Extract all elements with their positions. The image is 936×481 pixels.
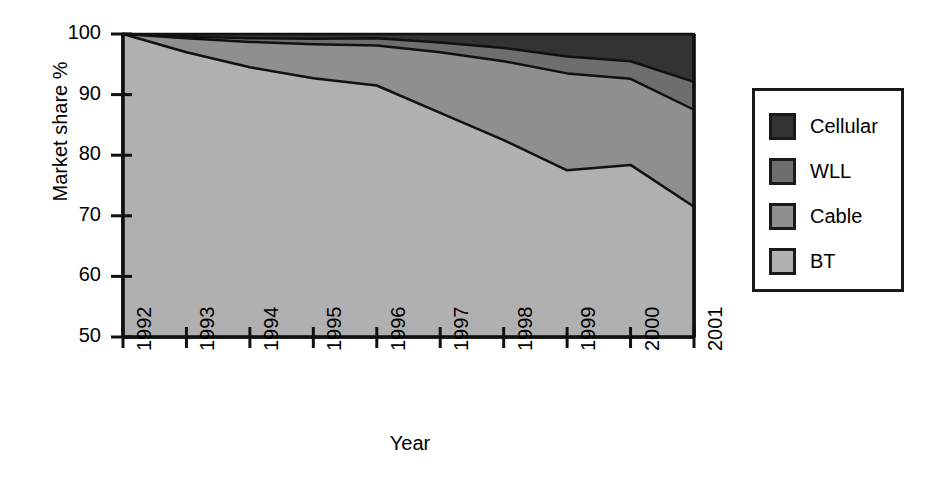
x-tick-label: 2001 (704, 307, 727, 352)
x-tick-label: 1998 (514, 307, 537, 352)
stacked-area-chart: Market share % Year 1009080706050 199219… (0, 0, 936, 481)
y-tick-label: 90 (45, 82, 101, 105)
y-tick-label: 60 (45, 263, 101, 286)
legend-item-label: Cellular (810, 116, 878, 136)
legend-item-label: BT (810, 251, 836, 271)
legend-item-cable[interactable]: Cable (769, 201, 862, 231)
x-tick-label: 1995 (323, 307, 346, 352)
legend-swatch-icon (769, 248, 796, 275)
x-tick-label: 1992 (133, 307, 156, 352)
x-tick-label: 1997 (450, 307, 473, 352)
y-tick-label: 80 (45, 142, 101, 165)
x-axis-title: Year (250, 432, 570, 455)
legend-swatch-icon (769, 203, 796, 230)
legend-swatch-icon (769, 158, 796, 185)
y-tick-label: 70 (45, 203, 101, 226)
legend-item-cellular[interactable]: Cellular (769, 111, 878, 141)
x-tick-label: 1999 (577, 307, 600, 352)
legend-item-bt[interactable]: BT (769, 246, 836, 276)
legend-item-wll[interactable]: WLL (769, 156, 851, 186)
y-tick-label: 50 (45, 324, 101, 347)
x-tick-label: 2000 (641, 307, 664, 352)
area-series-group (123, 34, 694, 337)
legend-item-label: Cable (810, 206, 862, 226)
x-tick-label: 1994 (260, 307, 283, 352)
x-tick-label: 1993 (196, 307, 219, 352)
chart-figure-root: Market share % Year 1009080706050 199219… (0, 0, 936, 481)
x-tick-label: 1996 (387, 307, 410, 352)
chart-legend: CellularWLLCableBT (752, 88, 904, 292)
legend-item-label: WLL (810, 161, 851, 181)
y-tick-label: 100 (45, 21, 101, 44)
legend-swatch-icon (769, 113, 796, 140)
